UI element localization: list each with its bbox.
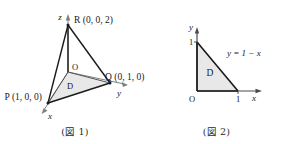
figure-1-region-d-fill (48, 72, 110, 103)
figure-1-point-p-label: P (1, 0, 0) (5, 92, 42, 103)
figure-2-canvas: y x 1 1 O D y = 1 − x (150, 0, 283, 124)
figure-1-z-axis-label: z (57, 12, 62, 22)
figure-1: z y x R (0, 0, 2) Q (0, 1, 0) P (1, 0, 0… (0, 0, 150, 144)
figure-1-z-axis-arrow (66, 14, 71, 21)
figure-1-canvas: z y x R (0, 0, 2) Q (0, 1, 0) P (1, 0, 0… (0, 0, 150, 124)
figure-2-x-tick-1-label: 1 (236, 94, 240, 104)
figure-2-x-axis-arrow (256, 89, 263, 93)
figure-1-vertex-r-dot (67, 24, 70, 27)
figure-2-line-equation-label: y = 1 − x (226, 48, 261, 58)
figure-1-y-axis-label: y (116, 88, 121, 98)
figure-2-caption: (図 2) (150, 124, 283, 138)
figure-2-y-tick-1-label: 1 (189, 37, 193, 47)
figure-1-point-r-label: R (0, 0, 2) (74, 15, 113, 26)
figure-1-x-axis-label: x (47, 111, 52, 121)
figure-1-point-q-label: Q (0, 1, 0) (105, 72, 144, 83)
figure-2-origin-label: O (189, 94, 195, 104)
figure-2: y x 1 1 O D y = 1 − x (図 2) (150, 0, 283, 144)
figure-page: z y x R (0, 0, 2) Q (0, 1, 0) P (1, 0, 0… (0, 0, 283, 144)
figure-2-region-d-label: D (207, 68, 214, 78)
figure-1-vertex-p-dot (47, 102, 50, 105)
figure-1-point-o-label: O (72, 62, 78, 72)
figure-2-y-axis-arrow (195, 27, 199, 34)
figure-1-y-axis-arrow (122, 82, 128, 87)
figure-1-x-axis-arrow (42, 108, 48, 114)
figure-2-y-axis-label: y (188, 22, 193, 32)
figure-2-x-axis-label: x (251, 93, 256, 103)
figure-1-region-d-label: D (67, 81, 73, 91)
figure-1-caption: (図 1) (0, 124, 150, 138)
